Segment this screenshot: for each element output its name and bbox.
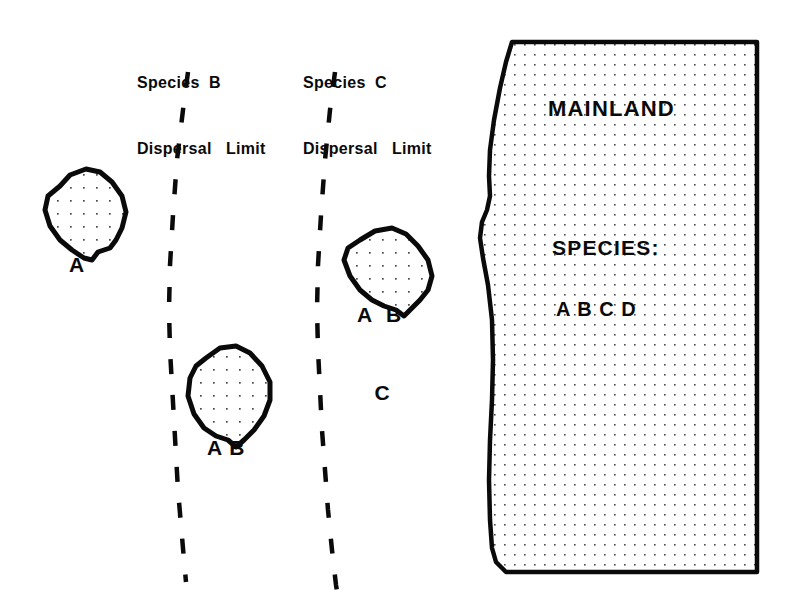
species-c-line1: Species C (303, 72, 432, 94)
mainland-species-heading: SPECIES: (552, 236, 660, 260)
species-c-line2: Dispersal Limit (303, 138, 432, 160)
species-b-line1: Species B (137, 72, 266, 94)
island-a-species-line1: A (69, 252, 96, 278)
island-ab-species-label: A B (207, 383, 245, 513)
species-b-dispersal-limit-label: Species B Dispersal Limit (137, 28, 266, 204)
species-c-dispersal-limit-label: Species C Dispersal Limit (303, 28, 432, 204)
island-ab-species-line1: A B (207, 435, 245, 461)
island-abc-species-line1: A B (357, 302, 402, 328)
island-abc-species-label: A B C (357, 250, 402, 458)
dispersal-diagram: Species B Dispersal Limit Species C Disp… (0, 0, 793, 615)
mainland-title: MAINLAND (548, 96, 675, 122)
species-b-line2: Dispersal Limit (137, 138, 266, 160)
island-abc-species-line2: C (357, 380, 402, 406)
mainland-species-list: A B C D (556, 298, 637, 321)
island-a-species-label: A (69, 200, 96, 330)
